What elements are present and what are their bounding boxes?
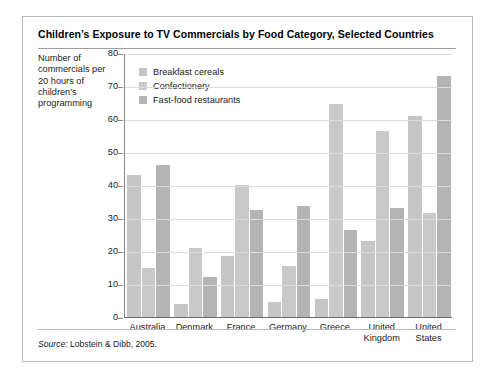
bar (235, 185, 249, 317)
bar (156, 165, 170, 317)
y-axis-tick-label: 10 (92, 279, 118, 289)
x-axis-tick-label: Australia (124, 322, 171, 333)
source-text: Lobstein & Dibb, 2005. (70, 339, 157, 349)
y-axis-tick-label: 20 (92, 246, 118, 256)
x-axis-tick-label: Germany (265, 322, 312, 333)
gridline (125, 186, 452, 187)
y-axis-tick (118, 252, 123, 253)
y-axis-tick (118, 285, 123, 286)
bar (423, 213, 437, 317)
y-axis-tick (118, 219, 123, 220)
y-axis-tick-label: 0 (92, 312, 118, 322)
y-axis-tick-label: 40 (92, 180, 118, 190)
bar (268, 302, 282, 317)
x-axis-tick-label: UnitedStates (405, 322, 452, 343)
gridline (125, 87, 452, 88)
chart-title: Children’s Exposure to TV Commercials by… (38, 28, 458, 40)
bar (390, 208, 404, 317)
x-axis-line (124, 317, 452, 318)
bar (376, 131, 390, 317)
x-axis-tick-label-line: Greece (311, 322, 358, 333)
y-axis-tick (118, 318, 123, 319)
y-axis-tick-label: 80 (92, 48, 118, 58)
x-axis-tick-label-line: United (405, 322, 452, 333)
x-axis-tick-label: Greece (311, 322, 358, 333)
source-prefix: Source: (38, 339, 68, 349)
x-axis-tick-label-line: United (358, 322, 405, 333)
bar (127, 175, 141, 317)
bar (203, 277, 217, 317)
y-axis-tick-label: 30 (92, 213, 118, 223)
bar (282, 266, 296, 317)
y-axis-tick-label: 70 (92, 81, 118, 91)
x-axis-tick-label-line: States (405, 333, 452, 344)
gridline (125, 120, 452, 121)
y-axis-tick (118, 54, 123, 55)
source-divider (38, 329, 456, 330)
y-axis-tick (118, 87, 123, 88)
x-axis-tick-label-line: Kingdom (358, 333, 405, 344)
gridline (125, 219, 452, 220)
bar (297, 206, 311, 317)
bar (221, 256, 235, 317)
bar (250, 210, 264, 317)
gridline (125, 54, 452, 55)
bar (437, 76, 451, 317)
y-axis-tick-label: 60 (92, 114, 118, 124)
x-axis-tick-label-line: Australia (124, 322, 171, 333)
bar (174, 304, 188, 317)
x-axis-tick-label: France (218, 322, 265, 333)
x-axis-tick-label: Denmark (171, 322, 218, 333)
bar (189, 248, 203, 317)
x-axis-tick-label-line: Germany (265, 322, 312, 333)
bar (315, 299, 329, 317)
source-note: Source: Lobstein & Dibb, 2005. (38, 339, 157, 349)
gridline (125, 252, 452, 253)
bar (344, 230, 358, 317)
x-axis-tick-label: UnitedKingdom (358, 322, 405, 343)
x-axis-tick-label-line: France (218, 322, 265, 333)
bar (142, 268, 156, 318)
gridline (125, 285, 452, 286)
y-axis-tick (118, 153, 123, 154)
x-axis-tick-label-line: Denmark (171, 322, 218, 333)
figure-panel: Children’s Exposure to TV Commercials by… (22, 16, 473, 362)
y-axis-tick (118, 120, 123, 121)
plot-area: 01020304050607080AustraliaDenmarkFranceG… (124, 54, 452, 318)
y-axis-tick-label: 50 (92, 147, 118, 157)
bar (408, 116, 422, 317)
gridline (125, 153, 452, 154)
y-axis-tick (118, 186, 123, 187)
